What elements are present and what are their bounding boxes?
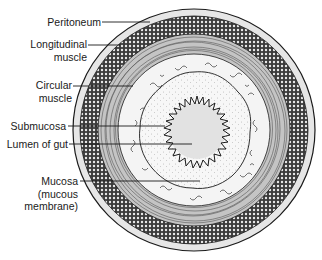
label-mucosa: Mucosa (mucous membrane) — [24, 175, 78, 213]
label-submucosa: Submucosa — [11, 120, 66, 133]
label-circular-muscle: Circular muscle — [36, 79, 72, 104]
label-longitudinal-muscle: Longitudinal muscle — [30, 38, 87, 63]
label-lumen: Lumen of gut — [7, 138, 68, 151]
lumen — [169, 103, 225, 159]
label-peritoneum: Peritoneum — [47, 16, 101, 29]
